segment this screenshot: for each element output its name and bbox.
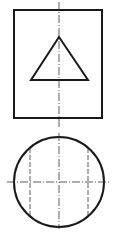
front-view-outline — [14, 10, 102, 118]
top-view — [7, 133, 111, 229]
front-view — [14, 2, 102, 127]
triangle-outline — [31, 37, 88, 80]
projection-drawing — [0, 0, 119, 243]
